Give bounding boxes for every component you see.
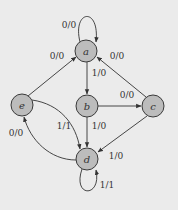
edge-label-e-a: 0/0 (50, 51, 65, 61)
state-label-b: b (84, 101, 90, 112)
edge-e-a (28, 57, 76, 96)
state-node-e: e (11, 94, 33, 116)
state-node-c: c (142, 95, 164, 117)
edge-label-b-d: 1/0 (92, 121, 107, 131)
edge-label-c-d: 1/0 (109, 151, 124, 161)
edge-a-a (79, 16, 97, 42)
edge-label-c-a: 0/0 (110, 51, 125, 61)
state-diagram: 0/0 1/0 0/0 0/0 0/0 1/0 1/0 1/1 0/0 1/1 … (0, 0, 178, 210)
edge-label-a-a: 0/0 (62, 20, 77, 30)
state-label-a: a (83, 46, 89, 57)
state-label-e: e (19, 100, 25, 111)
edge-label-a-b: 1/0 (92, 68, 107, 78)
state-label-c: c (150, 101, 156, 112)
edge-label-d-e: 0/0 (9, 128, 24, 138)
state-node-d: d (76, 148, 98, 170)
state-label-d: d (84, 154, 90, 165)
edge-label-e-d: 1/1 (57, 121, 71, 131)
edge-label-d-d: 1/1 (100, 180, 114, 190)
edge-d-d (80, 169, 97, 191)
edge-label-b-c: 0/0 (120, 90, 135, 100)
state-node-b: b (76, 95, 98, 117)
state-node-a: a (75, 40, 97, 62)
